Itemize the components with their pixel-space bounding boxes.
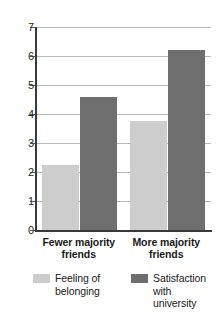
legend-label: Satisfactionwith university [153,272,216,310]
bar [42,165,79,230]
legend-label: Feeling ofbelonging [55,272,100,297]
x-axis-line [35,230,212,232]
x-axis-category-label-line: friends [35,248,123,260]
bar [80,97,117,230]
legend-swatch [131,274,148,283]
x-axis-category-label-line: More majority [123,236,211,248]
legend-entry: Feeling ofbelonging [33,272,100,297]
grouped-bar-chart: 01234567 Fewer majorityfriendsMore major… [0,0,216,317]
bars-layer [0,27,216,230]
legend: Feeling ofbelongingSatisfactionwith univ… [0,272,216,312]
x-axis-category-label-line: Fewer majority [35,236,123,248]
plot-area: 01234567 Fewer majorityfriendsMore major… [0,0,216,236]
bar [130,121,167,230]
legend-entry: Satisfactionwith university [131,272,216,310]
legend-label-line: belonging [55,285,100,298]
legend-label-line: Feeling of [55,272,100,285]
x-axis-category-labels: Fewer majorityfriendsMore majorityfriend… [35,236,212,266]
legend-label-line: Satisfaction [153,272,216,285]
legend-swatch [33,274,50,283]
bar [168,50,205,230]
x-axis-category-label-line: friends [123,248,211,260]
x-axis-category-label: Fewer majorityfriends [35,236,123,260]
x-axis-category-label: More majorityfriends [123,236,211,260]
legend-label-line: with university [153,285,216,310]
